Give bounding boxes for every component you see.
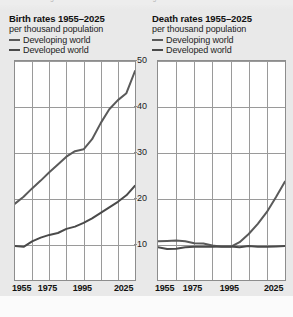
death-legend-item-developing: Developing world (152, 35, 252, 45)
caption-fade-overlay (0, 5, 293, 12)
x-axis-tick-label-1995: 1995 (73, 283, 92, 294)
birth-rates-x-axis: 1955197519952025 (14, 283, 136, 296)
line-swatch-icon (152, 39, 163, 41)
y-axis-tick-20: 20 (137, 193, 157, 203)
death-rates-svg (158, 61, 285, 280)
line-swatch-icon (152, 49, 163, 51)
birth-rates-title: Birth rates 1955–2025 (9, 13, 105, 24)
y-axis-tick-mark (134, 244, 137, 245)
line-swatch-icon (9, 49, 20, 51)
birth-legend-item-developing: Developing world (9, 35, 105, 45)
x-axis-tick-label-1975: 1975 (183, 283, 202, 294)
y-axis-tick-50: 50 (137, 55, 157, 65)
line-swatch-icon (9, 39, 20, 41)
birth-rates-subtitle: per thousand population (9, 24, 105, 35)
y-axis-tick-40: 40 (137, 101, 157, 111)
birth-rates-plot-area (14, 60, 136, 281)
x-axis-tick-label-1955: 1955 (155, 283, 174, 294)
death-rates-chart (157, 60, 286, 281)
death-rates-x-axis: 1955197519952025 (157, 283, 286, 296)
y-axis-tick-label: 30 (137, 147, 147, 157)
death-rates-title: Death rates 1955–2025 (152, 13, 252, 24)
y-axis-tick-mark (134, 106, 137, 107)
cut-off-caption-text: rates are rising and the death rate is a… (6, 0, 170, 1)
bottom-fill (0, 296, 293, 317)
birth-rates-chart (14, 60, 136, 281)
birth-legend-item-developed: Developed world (9, 45, 105, 55)
birth-legend-label-developing: Developing world (23, 35, 90, 45)
chart-headers: Birth rates 1955–2025 per thousand popul… (0, 13, 293, 58)
birth-legend-label-developed: Developed world (23, 45, 89, 55)
y-axis-tick-mark (134, 60, 137, 61)
death-legend-label-developed: Developed world (166, 45, 232, 55)
y-axis-tick-label: 20 (137, 193, 147, 203)
x-axis-tick-label-1975: 1975 (38, 283, 57, 294)
y-axis-tick-label: 40 (137, 101, 147, 111)
y-axis-tick-mark (134, 152, 137, 153)
chart-page: rates are rising and the death rate is a… (0, 0, 293, 317)
shared-y-axis: 5040302010 (137, 55, 157, 290)
x-axis-tick-label-2025: 2025 (114, 283, 133, 294)
death-rates-subtitle: per thousand population (152, 24, 252, 35)
series-line-developing-world (158, 182, 285, 247)
x-axis-tick-label-1995: 1995 (220, 283, 239, 294)
y-axis-tick-30: 30 (137, 147, 157, 157)
death-legend-item-developed: Developed world (152, 45, 252, 55)
death-legend-label-developing: Developing world (166, 35, 233, 45)
x-axis-tick-label-2025: 2025 (264, 283, 283, 294)
y-axis-tick-10: 10 (137, 239, 157, 249)
x-axis-tick-label-1955: 1955 (12, 283, 31, 294)
y-axis-tick-label: 50 (137, 55, 147, 65)
y-axis-tick-label: 10 (137, 239, 147, 249)
y-axis-tick-mark (134, 198, 137, 199)
cut-off-caption-strip: rates are rising and the death rate is a… (0, 0, 293, 12)
birth-rates-header: Birth rates 1955–2025 per thousand popul… (9, 13, 105, 55)
death-rates-plot-area (157, 60, 286, 281)
birth-rates-svg (15, 61, 135, 280)
death-rates-header: Death rates 1955–2025 per thousand popul… (152, 13, 252, 55)
